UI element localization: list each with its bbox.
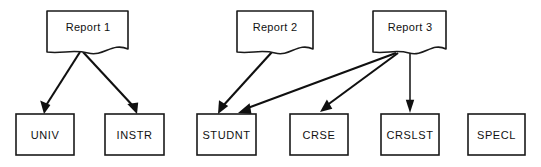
connection-line (222, 52, 272, 107)
node-label: Report 3 (388, 21, 433, 33)
node-univ[interactable]: UNIV (16, 114, 74, 155)
node-label: STUDNT (202, 129, 250, 141)
node-label: Report 1 (66, 21, 111, 33)
connection-report2-studnt (218, 52, 272, 114)
arrow-head-icon (320, 99, 332, 112)
node-label: INSTR (117, 129, 153, 141)
connection-line (245, 53, 396, 109)
connection-report1-instr (83, 52, 138, 114)
node-report1[interactable]: Report 1 (47, 11, 128, 54)
arrow-head-icon (127, 103, 138, 115)
connection-line (83, 52, 134, 107)
node-crse[interactable]: CRSE (290, 114, 348, 155)
node-specl[interactable]: SPECL (468, 114, 525, 155)
node-label: CRSLST (387, 129, 434, 141)
data-flow-diagram: Report 1 Report 2 Report 3 UNIV INSTR ST… (0, 0, 541, 167)
connection-report3-crslst (406, 50, 414, 113)
connection-report1-univ (40, 52, 80, 114)
node-report3[interactable]: Report 3 (373, 11, 446, 54)
arrow-head-icon (406, 100, 414, 113)
diagram-canvas: Report 1 Report 2 Report 3 UNIV INSTR ST… (0, 0, 541, 167)
node-label: CRSE (303, 129, 336, 141)
node-label: UNIV (31, 129, 60, 141)
connection-line (45, 52, 80, 107)
node-crslst[interactable]: CRSLST (381, 114, 439, 155)
node-label: SPECL (477, 129, 516, 141)
node-label: Report 2 (253, 21, 298, 33)
connection-line (326, 53, 398, 106)
node-report2[interactable]: Report 2 (237, 11, 313, 54)
arrow-head-icon (238, 103, 252, 114)
node-studnt[interactable]: STUDNT (197, 114, 256, 155)
connection-report3-crse (320, 53, 398, 112)
node-instr[interactable]: INSTR (105, 114, 164, 155)
